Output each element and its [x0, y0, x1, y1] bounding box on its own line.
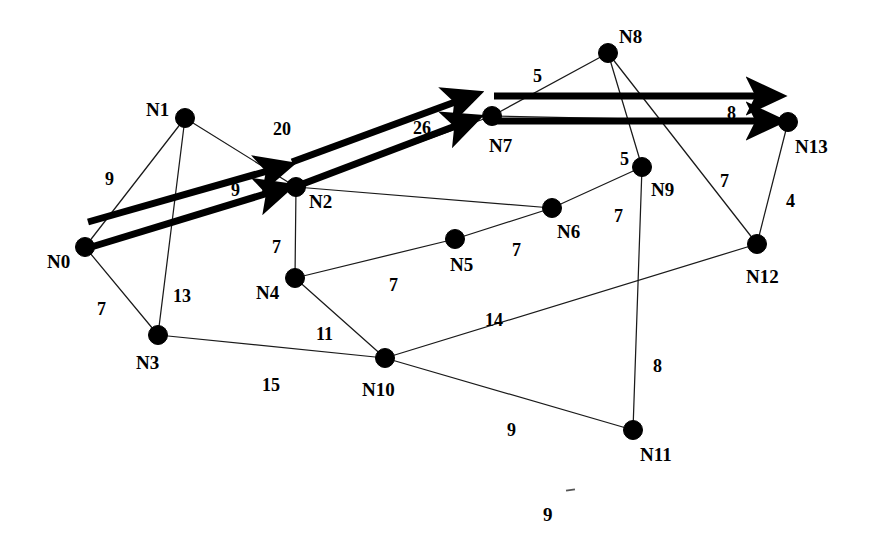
node-n7[interactable]: [483, 107, 502, 126]
highlight-n0-n2-lower: [88, 190, 278, 248]
node-label-n1: N1: [146, 100, 169, 119]
edge-weight-n0-n3: 7: [97, 300, 106, 318]
node-label-n10: N10: [362, 380, 395, 399]
node-n3[interactable]: [149, 326, 168, 345]
node-n10[interactable]: [376, 349, 395, 368]
node-label-n7: N7: [489, 136, 512, 155]
edge-weight-n4-n5: 7: [389, 276, 398, 294]
edge-n4-n5: [295, 239, 455, 278]
node-n0[interactable]: [76, 238, 95, 257]
edge-n6-n9: [552, 167, 642, 208]
edge-weight-n3-n10: 15: [262, 376, 280, 394]
edge-weight-n1-n3: 13: [173, 287, 191, 305]
node-label-n11: N11: [640, 445, 672, 464]
node-label-n12: N12: [746, 267, 779, 286]
edge-weight-n2-n7: 26: [413, 119, 431, 137]
node-layer: [76, 44, 798, 440]
edge-weight-n9-n11: 8: [653, 357, 662, 375]
node-n5[interactable]: [446, 230, 465, 249]
edge-n10-n12: [385, 244, 757, 358]
edge-n2-n4: [295, 187, 296, 278]
node-label-n3: N3: [136, 353, 159, 372]
edge-n7-n8: [492, 53, 608, 116]
edge-n9-n11: [633, 167, 642, 430]
highlight-n0-n2-upper: [88, 168, 278, 222]
node-n12[interactable]: [748, 235, 767, 254]
edge-n12-n13: [757, 122, 788, 244]
node-n8[interactable]: [599, 44, 618, 63]
edge-weight-n7-n8: 5: [533, 67, 542, 85]
edge-weight-n6-n9: 7: [614, 207, 623, 225]
edge-weight-n5-n6: 7: [512, 241, 521, 259]
edge-n3-n10: [158, 335, 385, 358]
edge-n6-n2: [296, 187, 552, 208]
node-label-n13: N13: [795, 137, 828, 156]
node-n6[interactable]: [543, 199, 562, 218]
edge-weight-n1-n2: 20: [273, 120, 291, 138]
node-n13[interactable]: [779, 113, 798, 132]
edge-weight-n8-n12: 7: [720, 172, 729, 190]
edge-n5-n6: [455, 208, 552, 239]
edge-weight-n10-n11: 9: [507, 421, 516, 439]
edge-weight-n7-n13: 8: [727, 104, 736, 122]
edge-weight-n8-n9: 5: [620, 150, 629, 168]
edge-n4-n10: [295, 278, 385, 358]
edge-weight-n2-n4: 7: [272, 238, 281, 256]
edge-n8-n12: [608, 53, 757, 244]
node-n2[interactable]: [287, 178, 306, 197]
edge-weight-n0-n2: 9: [231, 181, 240, 199]
node-label-n0: N0: [47, 252, 70, 271]
edge-n0-n1: [85, 118, 185, 247]
edge-weight-n12-n13: 4: [786, 192, 795, 210]
node-label-n8: N8: [619, 27, 642, 46]
node-label-n6: N6: [557, 222, 580, 241]
node-label-n9: N9: [651, 180, 674, 199]
edge-weight-n0-n1: 9: [105, 170, 114, 188]
node-label-n4: N4: [256, 283, 279, 302]
node-n9[interactable]: [633, 158, 652, 177]
page-number: 9: [543, 505, 553, 524]
node-n4[interactable]: [286, 269, 305, 288]
node-label-n5: N5: [450, 255, 473, 274]
node-n1[interactable]: [176, 109, 195, 128]
graph-figure: N0 N1 N2 N3 N4 N5 N6 N7 N8 N9 N10 N11 N1…: [0, 0, 878, 553]
edge-weight-n4-n10: 11: [316, 325, 333, 343]
edge-n0-n3: [85, 247, 158, 335]
edge-weight-n10-n12: 14: [485, 311, 503, 329]
node-label-n2: N2: [309, 192, 332, 211]
node-n11[interactable]: [624, 421, 643, 440]
